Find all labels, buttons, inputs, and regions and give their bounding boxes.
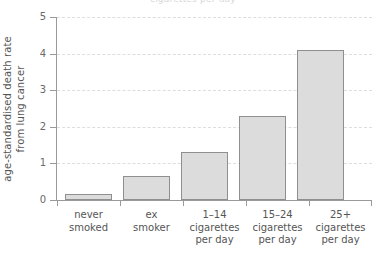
y-tick-mark-4 (50, 54, 56, 55)
x-category-line: per day (309, 234, 372, 247)
x-category-line: cigarettes (309, 222, 372, 235)
y-tick-label-5: 5 (32, 12, 46, 22)
y-tick-mark-3 (50, 90, 56, 91)
x-tick-mark-1 (120, 200, 121, 206)
bar-25-plus-cigarettes (297, 50, 344, 200)
bar-chart: cigarettes per day 5 4 3 2 1 0 (0, 0, 376, 257)
x-category-label-25-plus-cigarettes: 25+ cigarettes per day (309, 209, 372, 247)
y-tick-mark-5 (50, 17, 56, 18)
clipped-title-text: cigarettes per day (150, 0, 236, 4)
x-tick-mark-5 (371, 200, 372, 206)
x-tick-mark-0 (57, 200, 58, 206)
x-tick-mark-4 (309, 200, 310, 206)
y-tick-label-2: 2 (32, 122, 46, 132)
x-axis-line (56, 200, 372, 201)
x-category-line: ex (120, 209, 183, 222)
y-tick-mark-1 (50, 163, 56, 164)
y-tick-label-0: 0 (32, 195, 46, 205)
clipped-title-strip: cigarettes per day (0, 0, 376, 7)
y-tick-label-wrap-5: 5 (30, 12, 46, 22)
x-category-label-never-smoked: never smoked (57, 209, 120, 234)
y-axis-title: age-standardised death rate from lung ca… (0, 17, 30, 201)
x-category-line: cigarettes (183, 222, 246, 235)
y-tick-label-3: 3 (32, 85, 46, 95)
x-category-line: smoked (57, 222, 120, 235)
x-category-line: 1–14 (183, 209, 246, 222)
gridline-5 (57, 17, 372, 18)
bar-15-24-cigarettes (239, 116, 286, 200)
y-tick-label-wrap-2: 2 (30, 122, 46, 132)
x-category-line: 25+ (309, 209, 372, 222)
bar-ex-smoker (123, 176, 170, 200)
x-category-label-ex-smoker: ex smoker (120, 209, 183, 234)
x-category-label-15-24-cigarettes: 15–24 cigarettes per day (246, 209, 309, 247)
y-tick-label-wrap-4: 4 (30, 49, 46, 59)
bar-1-14-cigarettes (181, 152, 228, 200)
x-category-line: smoker (120, 222, 183, 235)
y-axis-line (56, 17, 57, 201)
y-axis-title-line-1: age-standardised death rate (2, 36, 13, 181)
y-tick-label-4: 4 (32, 49, 46, 59)
y-tick-label-wrap-1: 1 (30, 158, 46, 168)
y-tick-mark-0 (50, 200, 56, 201)
x-tick-mark-2 (183, 200, 184, 206)
y-tick-label-wrap-0: 0 (30, 195, 46, 205)
x-category-line: 15–24 (246, 209, 309, 222)
y-tick-label-wrap-3: 3 (30, 85, 46, 95)
x-category-line: cigarettes (246, 222, 309, 235)
y-axis-title-line-2: from lung cancer (15, 66, 26, 153)
x-category-label-1-14-cigarettes: 1–14 cigarettes per day (183, 209, 246, 247)
x-category-line: per day (246, 234, 309, 247)
plot-area (57, 17, 372, 200)
y-tick-mark-2 (50, 127, 56, 128)
x-tick-mark-3 (246, 200, 247, 206)
x-category-line: never (57, 209, 120, 222)
y-tick-label-1: 1 (32, 158, 46, 168)
x-category-line: per day (183, 234, 246, 247)
